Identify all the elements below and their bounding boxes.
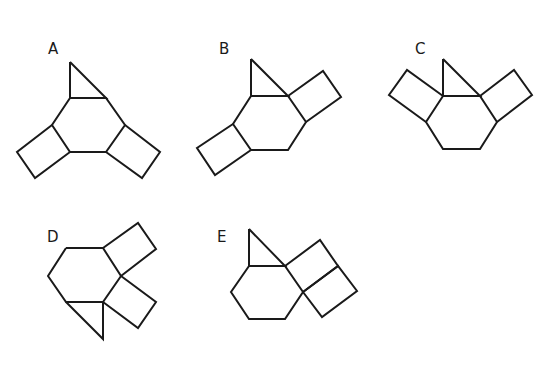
option-label: E (217, 228, 226, 246)
ring-outline (480, 70, 532, 122)
ring-outline (103, 223, 156, 276)
ring-outline (66, 302, 103, 339)
ring-outline (288, 71, 341, 122)
ring-outline (106, 125, 160, 178)
ring-outline (103, 276, 156, 328)
ring-outline (233, 96, 306, 150)
ring-outline (285, 240, 338, 292)
ring-outline (389, 70, 443, 122)
ring-outline (70, 62, 106, 98)
option-e[interactable]: E (217, 228, 357, 319)
option-label: B (219, 40, 229, 58)
option-b[interactable]: B (197, 40, 341, 175)
ring-outline (48, 248, 121, 302)
option-label: C (415, 40, 425, 58)
ring-outline (197, 124, 251, 175)
option-label: D (47, 228, 59, 246)
ring-outline (52, 98, 125, 152)
ring-outline (443, 59, 480, 96)
figure-canvas: A B C D E (0, 0, 548, 375)
option-c[interactable]: C (389, 40, 532, 149)
ring-outline (231, 266, 303, 319)
ring-outline (249, 229, 285, 266)
ring-outline (251, 59, 288, 96)
option-d[interactable]: D (47, 223, 156, 339)
option-label: A (48, 40, 59, 58)
ring-outline (17, 125, 70, 178)
ring-outline (303, 266, 357, 317)
ring-outline (426, 96, 497, 149)
option-a[interactable]: A (17, 40, 160, 178)
